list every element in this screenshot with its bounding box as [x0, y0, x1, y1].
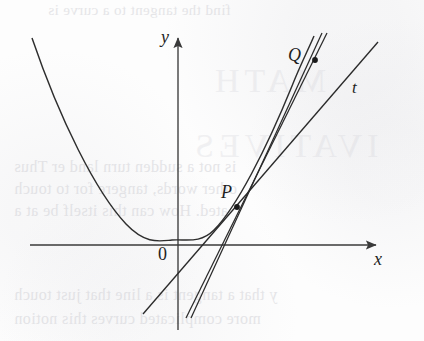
- y-axis-label: y: [161, 28, 169, 46]
- secant-line-2: [191, 33, 322, 318]
- tangent-line-label: t: [352, 79, 357, 96]
- x-axis-label: x: [374, 250, 382, 268]
- math-plot: [0, 0, 424, 341]
- point-p-dot: [234, 204, 240, 210]
- figure-container: find the tangent to a curve is MATH IVAT…: [0, 0, 424, 341]
- point-p-label: P: [221, 183, 232, 201]
- parabola-curve: [32, 36, 314, 241]
- point-q-label: Q: [288, 46, 301, 64]
- point-q-dot: [312, 57, 318, 63]
- origin-label: 0: [158, 245, 167, 263]
